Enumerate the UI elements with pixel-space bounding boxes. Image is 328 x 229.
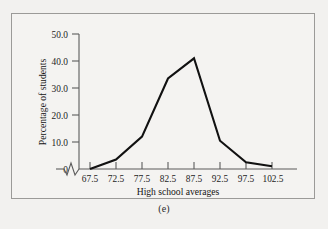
data-series-line xyxy=(90,58,272,169)
y-axis-ticks xyxy=(72,34,79,142)
x-axis-title: High school averages xyxy=(137,186,220,197)
y-tick-label-50: 50.0 xyxy=(52,30,69,40)
x-tick-label-82-5: 82.5 xyxy=(160,174,177,184)
x-tick-label-102-5: 102.5 xyxy=(262,174,283,184)
x-axis-ticks xyxy=(90,162,272,169)
x-tick-label-72-5: 72.5 xyxy=(108,174,125,184)
y-tick-label-30: 30.0 xyxy=(52,84,69,94)
x-tick-label-77-5: 77.5 xyxy=(134,174,151,184)
figure-container: 50.0 40.0 30.0 20.0 10.0 0 Percentage of… xyxy=(0,0,328,229)
y-tick-label-10: 10.0 xyxy=(52,138,69,148)
chart-frame: 50.0 40.0 30.0 20.0 10.0 0 Percentage of… xyxy=(11,13,315,199)
y-axis-tick-labels: 50.0 40.0 30.0 20.0 10.0 0 xyxy=(52,30,69,175)
x-tick-label-67-5: 67.5 xyxy=(82,174,99,184)
y-tick-label-40: 40.0 xyxy=(52,57,69,67)
x-axis-tick-labels: 67.5 72.5 77.5 82.5 87.5 92.5 97.5 102.5 xyxy=(82,174,284,184)
y-tick-label-20: 20.0 xyxy=(52,111,69,121)
frequency-polygon-chart: 50.0 40.0 30.0 20.0 10.0 0 Percentage of… xyxy=(12,14,314,198)
x-tick-label-92-5: 92.5 xyxy=(212,174,229,184)
x-tick-label-97-5: 97.5 xyxy=(238,174,255,184)
figure-caption: (e) xyxy=(0,203,328,214)
x-tick-label-87-5: 87.5 xyxy=(186,174,203,184)
y-axis-title: Percentage of students xyxy=(37,59,48,146)
